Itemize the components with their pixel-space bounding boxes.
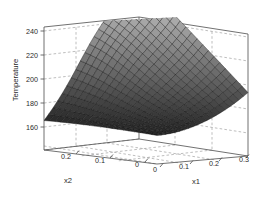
x1-tick-marks <box>160 155 249 168</box>
x1-tick-label-0.1: 0.1 <box>179 162 189 171</box>
surface-facet <box>159 3 169 15</box>
x1-tick-label-0.2: 0.2 <box>209 159 219 168</box>
gridline-floor-x1-0.1 <box>80 145 175 156</box>
axis-line-x1 <box>157 156 248 164</box>
surface-facet <box>147 0 157 4</box>
x2-tick-0 <box>145 159 148 163</box>
surface-facet <box>108 10 118 20</box>
x2-tick-label-0.1: 0.1 <box>95 156 105 165</box>
surface-facet <box>128 6 138 17</box>
x2-tick-label-0: 0 <box>135 160 139 169</box>
x2-axis-title: x2 <box>64 176 72 185</box>
surface-facet <box>138 5 148 16</box>
z-tick-label-240: 240 <box>26 27 38 36</box>
plot-canvas: 240 220 200 180 160 Temperature 0.2 0.1 … <box>0 0 267 200</box>
x2-tick-0.1 <box>110 155 113 159</box>
x1-axis-title: x1 <box>192 177 200 186</box>
surface-facet <box>137 0 147 5</box>
surface-facet <box>149 4 159 16</box>
z-tick-label-180: 180 <box>26 99 38 108</box>
x1-tick-label-0: 0 <box>153 165 157 174</box>
surface-mesh <box>44 0 248 135</box>
surface-facet <box>122 1 132 12</box>
z-axis-title: Temperature <box>11 59 20 102</box>
z-tick-marks <box>41 31 45 127</box>
surface-facet <box>118 8 128 18</box>
z-tick-labels: 240 220 200 180 160 <box>26 27 38 132</box>
z-tick-label-160: 160 <box>26 123 38 132</box>
gridline-floor-x2-0.1b <box>76 146 186 164</box>
surface-facet <box>133 0 143 11</box>
surface-plot-figure: 240 220 200 180 160 Temperature 0.2 0.1 … <box>0 0 267 200</box>
surface-facet <box>117 0 127 8</box>
x1-tick-label-0.3: 0.3 <box>239 155 249 164</box>
surface-facet <box>121 0 131 1</box>
surface-facet <box>153 0 163 10</box>
surface-facet <box>143 0 153 11</box>
surface-facet <box>127 0 137 6</box>
gridline-floor-x2-0.1 <box>107 143 216 160</box>
z-tick-label-200: 200 <box>26 75 38 84</box>
x2-tick-label-0.2: 0.2 <box>61 152 71 161</box>
surface-facet <box>112 3 122 13</box>
x1-tick-labels: 0 0.1 0.2 0.3 <box>153 155 249 174</box>
z-tick-label-220: 220 <box>26 51 38 60</box>
